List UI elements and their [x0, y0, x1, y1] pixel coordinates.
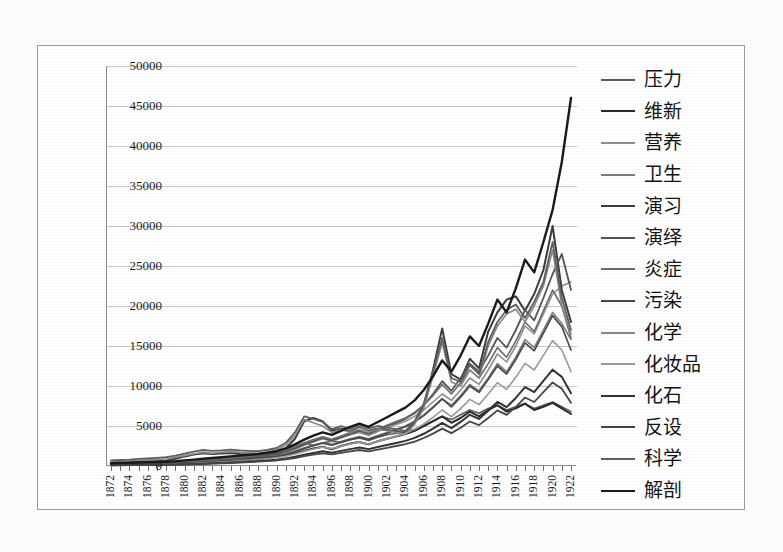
legend-item[interactable]: 化妆品: [601, 348, 741, 380]
x-tick-label: 1884: [214, 475, 226, 498]
legend-item[interactable]: 科学: [601, 443, 741, 475]
x-tick-mark: [369, 466, 370, 471]
x-tick-mark: [497, 466, 498, 471]
legend-line-icon: [601, 205, 635, 207]
x-tick-mark: [451, 466, 452, 471]
x-tick-mark: [231, 466, 232, 471]
x-tick-mark: [571, 466, 572, 471]
series-lines: [107, 66, 577, 466]
x-tick-label: 1874: [122, 475, 134, 498]
series-line: [111, 382, 571, 465]
series-line: [111, 254, 571, 464]
x-tick-mark: [267, 466, 268, 471]
x-tick-mark: [378, 466, 379, 471]
x-tick-mark: [286, 466, 287, 471]
x-tick-label: 1892: [288, 475, 300, 498]
x-tick-label: 1872: [104, 475, 116, 498]
x-tick-mark: [120, 466, 121, 471]
x-tick-mark: [479, 466, 480, 471]
legend-label: 污染: [644, 291, 682, 310]
x-tick-label: 1920: [546, 475, 558, 498]
x-tick-mark: [359, 466, 360, 471]
legend-label: 卫生: [644, 165, 682, 184]
legend-line-icon: [601, 174, 635, 176]
legend-label: 化学: [644, 323, 682, 342]
x-tick-mark: [461, 466, 462, 471]
x-tick-mark: [304, 466, 305, 471]
x-tick-mark: [562, 466, 563, 471]
x-tick-label: 1876: [141, 475, 153, 498]
x-tick-mark: [516, 466, 517, 471]
legend-line-icon: [601, 300, 635, 302]
x-tick-mark: [534, 466, 535, 471]
x-tick-mark: [175, 466, 176, 471]
y-axis-labels: 0500010000150002000025000300003500040000…: [100, 66, 162, 466]
x-tick-mark: [139, 466, 140, 471]
series-line: [111, 226, 571, 463]
y-tick-mark: [157, 466, 162, 467]
legend-label: 反设: [644, 418, 682, 437]
legend-item[interactable]: 污染: [601, 285, 741, 317]
legend-item[interactable]: 化学: [601, 317, 741, 349]
x-tick-label: 1912: [472, 475, 484, 498]
plot-area: [106, 66, 576, 466]
y-tick-mark: [157, 66, 162, 67]
x-tick-label: 1894: [306, 475, 318, 498]
legend-label: 维新: [644, 102, 682, 121]
legend-item[interactable]: 化石: [601, 380, 741, 412]
legend-item[interactable]: 维新: [601, 96, 741, 128]
legend-item[interactable]: 炎症: [601, 254, 741, 286]
x-tick-mark: [249, 466, 250, 471]
x-tick-mark: [277, 466, 278, 471]
legend-item[interactable]: 演绎: [601, 222, 741, 254]
x-tick-label: 1922: [564, 475, 576, 498]
x-tick-mark: [148, 466, 149, 471]
x-tick-mark: [203, 466, 204, 471]
chart-legend: 压力维新营养卫生演习演绎炎症污染化学化妆品化石反设科学解剖: [601, 64, 741, 506]
y-tick-mark: [157, 426, 162, 427]
legend-label: 化妆品: [644, 355, 701, 374]
legend-item[interactable]: 反设: [601, 412, 741, 444]
x-tick-mark: [470, 466, 471, 471]
x-tick-label: 1878: [159, 475, 171, 498]
figure-page: 0500010000150002000025000300003500040000…: [0, 0, 783, 552]
x-tick-label: 1914: [490, 475, 502, 498]
x-tick-mark: [166, 466, 167, 471]
x-tick-mark: [387, 466, 388, 471]
legend-label: 化石: [644, 386, 682, 405]
legend-item[interactable]: 营养: [601, 127, 741, 159]
x-tick-label: 1890: [270, 475, 282, 498]
legend-line-icon: [601, 395, 635, 397]
x-tick-mark: [323, 466, 324, 471]
legend-line-icon: [601, 332, 635, 334]
x-tick-mark: [341, 466, 342, 471]
legend-item[interactable]: 解剖: [601, 475, 741, 507]
legend-line-icon: [601, 363, 635, 365]
legend-label: 营养: [644, 133, 682, 152]
y-tick-mark: [157, 186, 162, 187]
x-tick-mark: [221, 466, 222, 471]
x-tick-mark: [194, 466, 195, 471]
legend-line-icon: [601, 237, 635, 239]
y-tick-mark: [157, 346, 162, 347]
x-tick-label: 1888: [251, 475, 263, 498]
x-tick-label: 1882: [196, 475, 208, 498]
x-tick-mark: [553, 466, 554, 471]
x-tick-mark: [405, 466, 406, 471]
y-tick-mark: [157, 266, 162, 267]
plot-wrapper: 0500010000150002000025000300003500040000…: [106, 66, 576, 467]
x-tick-mark: [543, 466, 544, 471]
x-tick-mark: [424, 466, 425, 471]
x-tick-label: 1900: [362, 475, 374, 498]
legend-item[interactable]: 压力: [601, 64, 741, 96]
legend-line-icon: [601, 268, 635, 270]
legend-item[interactable]: 演习: [601, 190, 741, 222]
legend-line-icon: [601, 458, 635, 460]
legend-item[interactable]: 卫生: [601, 159, 741, 191]
x-tick-label: 1880: [178, 475, 190, 498]
x-tick-mark: [507, 466, 508, 471]
legend-label: 解剖: [644, 481, 682, 500]
x-tick-mark: [212, 466, 213, 471]
x-tick-label: 1906: [417, 475, 429, 498]
x-tick-mark: [295, 466, 296, 471]
